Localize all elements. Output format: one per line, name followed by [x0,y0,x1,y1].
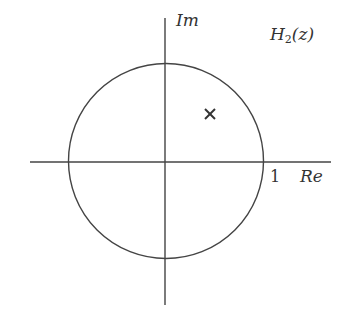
transfer-function-title: H2(z) [270,24,314,46]
title-arg: (z) [292,24,314,44]
real-axis-label: Re [300,166,323,186]
pole-marker [205,109,215,119]
unit-tick-label: 1 [270,167,280,186]
imag-axis-label: Im [176,10,199,30]
unit-circle [69,64,264,259]
title-subscript: 2 [285,33,292,46]
pole-zero-plot [0,0,358,312]
title-h: H [270,24,285,44]
